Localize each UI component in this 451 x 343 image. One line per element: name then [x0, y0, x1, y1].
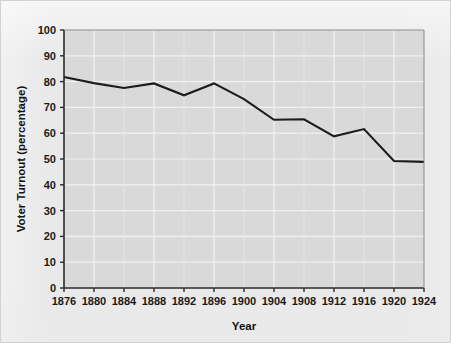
y-tick-label: 70 — [44, 101, 56, 113]
x-tick-label: 1912 — [322, 295, 346, 307]
x-tick-label: 1896 — [202, 295, 226, 307]
y-tick-label: 20 — [44, 230, 56, 242]
y-tick-label: 50 — [44, 153, 56, 165]
x-tick-label: 1916 — [352, 295, 376, 307]
y-tick-label: 60 — [44, 127, 56, 139]
y-tick-label: 90 — [44, 50, 56, 62]
chart-figure: 0102030405060708090100 18761880188418881… — [0, 0, 451, 343]
x-tick-label: 1920 — [382, 295, 406, 307]
x-tick-label: 1880 — [82, 295, 106, 307]
x-tick-label: 1904 — [262, 295, 287, 307]
y-axis-title: Voter Turnout (percentage) — [15, 86, 27, 233]
x-tick-label: 1888 — [142, 295, 166, 307]
x-axis-tick-labels: 1876188018841888189218961900190419081912… — [52, 295, 437, 307]
x-tick-label: 1892 — [172, 295, 196, 307]
x-tick-label: 1900 — [232, 295, 256, 307]
voter-turnout-line-chart: 0102030405060708090100 18761880188418881… — [1, 1, 451, 343]
x-tick-label: 1908 — [292, 295, 316, 307]
x-tick-label: 1884 — [112, 295, 137, 307]
y-tick-label: 10 — [44, 256, 56, 268]
y-tick-label: 100 — [38, 24, 56, 36]
y-tick-label: 80 — [44, 76, 56, 88]
y-axis-tick-labels: 0102030405060708090100 — [38, 24, 56, 294]
y-tick-label: 40 — [44, 179, 56, 191]
x-axis-title: Year — [232, 320, 257, 332]
x-tick-label: 1924 — [412, 295, 437, 307]
x-tick-label: 1876 — [52, 295, 76, 307]
y-tick-label: 0 — [50, 282, 56, 294]
y-tick-label: 30 — [44, 205, 56, 217]
